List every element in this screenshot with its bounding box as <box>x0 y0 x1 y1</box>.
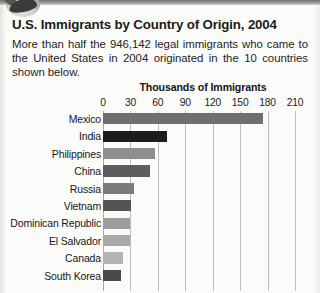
x-tick-label: 180 <box>259 97 276 108</box>
x-tick-label: 210 <box>287 97 304 108</box>
bar-row: Russia <box>7 181 313 198</box>
bar-category-label: Vietnam <box>0 200 101 212</box>
bar-category-label: India <box>0 130 101 142</box>
bar <box>103 252 123 263</box>
bar-category-label: Dominican Republic <box>0 217 101 229</box>
bar <box>103 218 130 229</box>
x-tick-label: 0 <box>100 97 106 108</box>
bar <box>103 183 134 194</box>
x-tick-label: 60 <box>152 97 163 108</box>
bar-row: Philippines <box>7 146 313 163</box>
bar-row: China <box>7 163 313 180</box>
page-right-edge <box>314 5 320 293</box>
bar-row: India <box>7 128 313 145</box>
bar <box>103 235 130 246</box>
bar-row: Canada <box>7 250 313 267</box>
bar-category-label: Mexico <box>0 113 101 125</box>
bar-chart: Thousands of Immigrants 0306090120150180… <box>7 81 313 293</box>
bar-row: Mexico <box>7 111 313 128</box>
bar <box>103 165 150 176</box>
bar-category-label: El Salvador <box>0 235 101 247</box>
x-tick-label: 30 <box>125 97 136 108</box>
bar <box>103 131 167 142</box>
page-root: U.S. Immigrants by Country of Origin, 20… <box>0 0 320 293</box>
page-title: U.S. Immigrants by Country of Origin, 20… <box>12 17 313 32</box>
plot-area: 0306090120150180210 MexicoIndiaPhilippin… <box>7 97 313 293</box>
x-axis-title: Thousands of Immigrants <box>103 81 303 93</box>
bar-category-label: South Korea <box>0 270 101 282</box>
x-axis-tick-labels: 0306090120150180210 <box>7 97 313 111</box>
bar-category-label: China <box>0 165 101 177</box>
bar-category-label: Russia <box>0 183 101 195</box>
bar-row: Vietnam <box>7 198 313 215</box>
article-content: U.S. Immigrants by Country of Origin, 20… <box>7 5 313 293</box>
intro-paragraph: More than half the 946,142 legal immigra… <box>12 37 308 80</box>
bar-row: El Salvador <box>7 233 313 250</box>
x-tick-label: 120 <box>204 97 221 108</box>
x-tick-label: 90 <box>180 97 191 108</box>
bar <box>103 148 155 159</box>
bar <box>103 113 263 124</box>
bar-category-label: Canada <box>0 252 101 264</box>
bar-row: South Korea <box>7 268 313 285</box>
bar-rows: MexicoIndiaPhilippinesChinaRussiaVietnam… <box>7 111 313 291</box>
x-tick-label: 150 <box>232 97 249 108</box>
bar-category-label: Philippines <box>0 148 101 160</box>
bar <box>103 270 121 281</box>
bar-row: Dominican Republic <box>7 215 313 232</box>
bar <box>103 200 131 211</box>
